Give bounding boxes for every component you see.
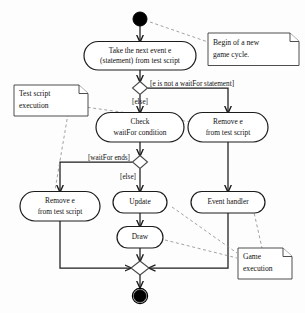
note-game-execution-line2: execution	[243, 264, 273, 273]
guard-else-top: [else]	[132, 98, 148, 106]
edge-decision-to-remove-top	[148, 88, 229, 113]
action-remove-event-bottom-label-line1: Remove e	[45, 196, 75, 205]
action-update-label: Update	[129, 197, 151, 206]
guard-not-waitfor: [e is not a waitFor statement]	[150, 80, 234, 88]
anchor-game-execution-to-event-handler	[253, 208, 262, 248]
action-draw-label: Draw	[132, 232, 149, 241]
action-remove-event-top[interactable]: Remove e from test script	[188, 113, 268, 143]
action-check-waitfor-label-line1: Check	[131, 117, 150, 126]
note-begin-cycle: Begin of a new game cycle.	[208, 33, 299, 66]
final-node	[132, 288, 147, 303]
guard-waitfor-ends: [waitFor ends]	[88, 154, 130, 162]
action-draw[interactable]: Draw	[117, 227, 163, 249]
decision-waitfor-ends[interactable]	[133, 156, 148, 169]
guard-else-bottom: [else]	[120, 173, 136, 181]
anchor-game-execution-to-draw	[165, 240, 237, 258]
note-test-script-line2: execution	[19, 101, 49, 110]
action-update[interactable]: Update	[113, 192, 167, 214]
action-remove-event-top-label-line2: from test script	[206, 128, 252, 137]
uml-activity-diagram: Take the next event e (statement) from t…	[0, 0, 305, 313]
note-game-execution-line1: Game	[243, 252, 262, 261]
anchor-test-script-note-to-remove-bottom	[55, 108, 69, 190]
action-event-handler[interactable]: Event handler	[191, 192, 265, 214]
initial-node	[133, 12, 147, 26]
decision-is-waitfor[interactable]	[133, 82, 148, 95]
merge-node[interactable]	[131, 261, 149, 275]
note-game-execution: Game execution	[238, 248, 292, 279]
action-remove-event-bottom[interactable]: Remove e from test script	[20, 192, 100, 222]
action-check-waitfor-condition[interactable]: Check waitFor condition	[96, 113, 184, 143]
anchor-begin-cycle-note	[150, 22, 208, 42]
action-remove-event-top-label-line1: Remove e	[213, 117, 243, 126]
note-test-script-line1: Test script	[19, 89, 51, 98]
action-check-waitfor-label-line2: waitFor condition	[114, 128, 167, 137]
action-event-handler-label: Event handler	[207, 197, 249, 206]
diagram-canvas: Take the next event e (statement) from t…	[0, 0, 305, 313]
note-test-script-execution: Test script execution	[14, 85, 88, 116]
anchor-game-execution-to-update	[172, 207, 237, 253]
action-take-next-event[interactable]: Take the next event e (statement) from t…	[84, 42, 196, 71]
action-take-next-event-label-line1: Take the next event e	[109, 46, 172, 55]
note-begin-cycle-line1: Begin of a new	[213, 38, 260, 47]
action-take-next-event-label-line2: (statement) from test script	[100, 56, 181, 65]
note-begin-cycle-line2: game cycle.	[213, 50, 249, 59]
action-remove-event-bottom-label-line2: from test script	[38, 207, 84, 216]
